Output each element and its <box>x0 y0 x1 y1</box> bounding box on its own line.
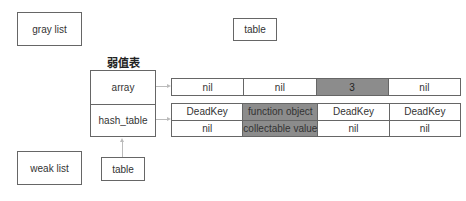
hash-table-field-label: hash_table <box>99 115 148 126</box>
table-pointer-arrow-icon <box>120 138 124 142</box>
table-node-bottom: table <box>101 157 145 181</box>
hash-value: collectable value <box>243 121 317 137</box>
table-node-top: table <box>233 18 277 41</box>
hash-key: function object <box>243 104 317 121</box>
hash-table-field: hash_table <box>91 104 155 136</box>
hash-value: nil <box>318 121 388 137</box>
hash-value: nil <box>172 121 242 137</box>
weak-value-table-title: 弱值表 <box>107 54 140 70</box>
array-cell: nil <box>389 79 460 95</box>
table-top-label: table <box>244 24 266 35</box>
gray-list-label: gray list <box>32 24 66 35</box>
hash-value: nil <box>390 121 460 137</box>
hash-entry-highlighted: function object collectable value <box>243 104 318 136</box>
weak-list-label: weak list <box>30 163 68 174</box>
hash-entry: DeadKey nil <box>390 104 460 136</box>
weak-list-node: weak list <box>17 151 82 185</box>
hash-key: DeadKey <box>172 104 242 121</box>
array-cell: nil <box>244 79 316 95</box>
table-struct: array hash_table <box>90 70 156 137</box>
array-field-label: array <box>112 82 135 93</box>
array-field: array <box>91 71 155 105</box>
hash-entry: DeadKey nil <box>318 104 389 136</box>
gray-list-node: gray list <box>17 12 82 46</box>
table-pointer-line <box>122 141 123 157</box>
table-bottom-label: table <box>112 164 134 175</box>
array-cell-highlighted: 3 <box>317 79 389 95</box>
hash-part: DeadKey nil function object collectable … <box>171 103 461 137</box>
hash-key: DeadKey <box>318 104 388 121</box>
hash-entry: DeadKey nil <box>172 104 243 136</box>
array-cell: nil <box>172 79 244 95</box>
hash-key: DeadKey <box>390 104 460 121</box>
array-part: nil nil 3 nil <box>171 78 461 96</box>
